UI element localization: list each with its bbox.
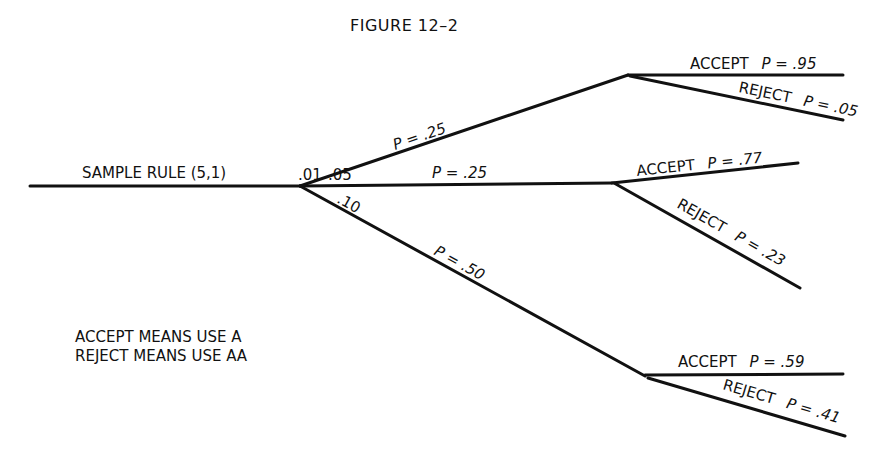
outcome-line-10-accept bbox=[645, 374, 843, 375]
outcome-01-accept-text: ACCEPT bbox=[690, 55, 749, 73]
branch-prob-01-text: P = .25 bbox=[391, 119, 449, 154]
outcome-10-accept-prob: P = .59 bbox=[749, 353, 804, 371]
outcome-05-reject-label: REJECT P = .23 bbox=[674, 195, 788, 270]
outcome-10-accept-text: ACCEPT bbox=[678, 353, 737, 371]
branch-prob-05: P = .25 bbox=[432, 164, 487, 182]
branch-prob-01: P = .25 bbox=[391, 119, 449, 154]
outcome-line-05-reject bbox=[614, 183, 800, 288]
outcome-01-accept-label: ACCEPT P = .95 bbox=[690, 55, 816, 73]
outcome-01-reject-label: REJECT P = .05 bbox=[737, 78, 859, 120]
decision-tree-canvas: FIGURE 12–2 SAMPLE RULE (5,1) .01 P = .2… bbox=[0, 0, 895, 457]
root-label: SAMPLE RULE (5,1) bbox=[82, 164, 226, 182]
outcome-01-accept-prob: P = .95 bbox=[761, 55, 816, 73]
legend-accept: ACCEPT MEANS USE A bbox=[75, 328, 242, 346]
outcome-05-reject-text: REJECT bbox=[674, 195, 730, 237]
figure-title: FIGURE 12–2 bbox=[350, 16, 458, 35]
legend-reject: REJECT MEANS USE AA bbox=[75, 347, 248, 365]
decision-tree-figure: FIGURE 12–2 SAMPLE RULE (5,1) .01 P = .2… bbox=[0, 0, 895, 457]
branch-state-10: .10 bbox=[334, 190, 364, 217]
branch-state-01: .01 bbox=[298, 166, 322, 184]
outcome-10-accept-label: ACCEPT P = .59 bbox=[678, 353, 804, 371]
outcome-05-reject-prob: P = .23 bbox=[732, 227, 789, 270]
outcome-10-reject-label: REJECT P = .41 bbox=[721, 376, 842, 427]
branch-state-05: .05 bbox=[328, 166, 352, 184]
outcome-05-accept-label: ACCEPT P = .77 bbox=[636, 149, 764, 180]
